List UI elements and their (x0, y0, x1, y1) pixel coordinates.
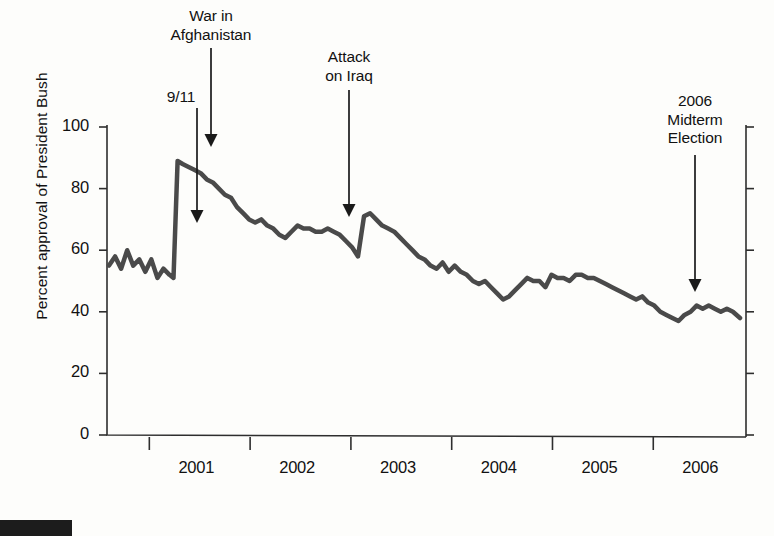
annotation-arrowhead-attack-on-iraq (343, 204, 356, 217)
annotation-label-midterm-election: 2006MidtermElection (585, 92, 774, 148)
y-tick-label: 60 (43, 239, 89, 258)
chart-figure: Percent approval of President Bush 02040… (0, 0, 774, 536)
annotation-line: Attack (239, 48, 459, 67)
page-margin-artifact (0, 520, 72, 536)
annotation-label-sept-eleven: 9/11 (71, 88, 291, 107)
approval-line (109, 161, 740, 321)
annotation-line: 9/11 (71, 88, 291, 107)
y-tick-label: 80 (43, 178, 89, 197)
annotation-line: Election (585, 129, 774, 148)
x-tick-label: 2004 (464, 458, 534, 477)
annotation-line: on Iraq (239, 67, 459, 86)
annotation-arrowhead-war-in-afghanistan (205, 134, 218, 147)
y-tick-label: 0 (43, 424, 89, 443)
x-tick-label: 2002 (262, 458, 332, 477)
annotation-arrowhead-sept-eleven (191, 210, 204, 223)
annotation-line: 2006 (585, 92, 774, 111)
annotation-label-attack-on-iraq: Attackon Iraq (239, 48, 459, 85)
x-tick-label: 2006 (665, 458, 735, 477)
y-tick-label: 20 (43, 362, 89, 381)
x-tick-label: 2001 (161, 458, 231, 477)
annotation-label-war-in-afghanistan: War inAfghanistan (101, 7, 321, 44)
y-tick-label: 40 (43, 301, 89, 320)
y-tick-label: 100 (43, 116, 89, 135)
annotation-line: Afghanistan (101, 26, 321, 45)
annotation-arrowhead-midterm-election (689, 279, 702, 292)
axis-spines (107, 125, 746, 437)
x-tick-label: 2005 (564, 458, 634, 477)
x-tick-label: 2003 (363, 458, 433, 477)
annotation-line: War in (101, 7, 321, 26)
annotation-line: Midterm (585, 111, 774, 130)
